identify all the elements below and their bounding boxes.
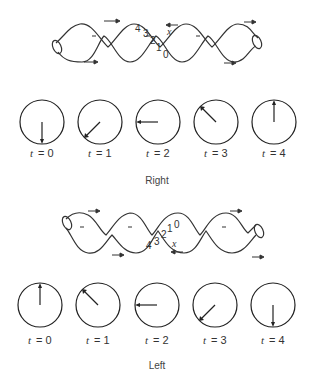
left-clock-t2: t = 2 <box>135 283 179 346</box>
left-clock-t1: t = 1 <box>76 283 120 346</box>
left-clock-t0-eq: = 0 <box>36 334 52 346</box>
right-helix-diagram: x 4 3 2 1 0 <box>0 0 314 80</box>
left-clock-t2-eq: = 2 <box>153 334 169 346</box>
left-num-3: 3 <box>154 236 160 247</box>
right-clock-t4-var: t <box>262 147 266 159</box>
right-clock-t1-eq: = 1 <box>96 147 112 159</box>
left-clock-row: t = 0 t = 1 t = 2 t = 3 t = 4 <box>0 278 314 350</box>
left-caption: Left <box>0 360 314 371</box>
left-num-0: 0 <box>174 219 180 230</box>
right-clock-t0-eq: = 0 <box>38 147 54 159</box>
left-num-1: 1 <box>167 223 173 234</box>
right-num-1: 1 <box>156 42 162 53</box>
right-clock-t4: t = 4 <box>252 100 296 159</box>
right-clock-t1: t = 1 <box>78 100 122 159</box>
right-clock-t2-var: t <box>146 147 150 159</box>
right-num-0: 0 <box>163 49 169 60</box>
right-clock-t3-eq: = 3 <box>212 147 228 159</box>
left-clock-t3-eq: = 3 <box>211 334 227 346</box>
right-clock-t0-var: t <box>30 147 34 159</box>
left-clock-t0: t = 0 <box>18 283 62 346</box>
left-clock-t2-var: t <box>145 334 149 346</box>
left-clock-t4-eq: = 4 <box>269 334 285 346</box>
left-clock-t4: t = 4 <box>251 283 295 346</box>
left-clock-t3-var: t <box>203 334 207 346</box>
left-num-4: 4 <box>146 240 152 251</box>
right-clock-row: t = 0 t = 1 t = 2 t = 3 t = 4 <box>0 95 314 165</box>
left-clock-t1-var: t <box>86 334 90 346</box>
right-clock-t2-eq: = 2 <box>154 147 170 159</box>
right-clock-t2: t = 2 <box>136 100 180 159</box>
right-caption: Right <box>0 175 314 186</box>
left-clock-t0-var: t <box>28 334 32 346</box>
left-clock-t1-eq: = 1 <box>94 334 110 346</box>
right-clock-t0: t = 0 <box>20 100 64 159</box>
left-clock-t3: t = 3 <box>193 283 237 346</box>
right-clock-t3-var: t <box>204 147 208 159</box>
right-x-variable: x <box>166 26 172 37</box>
right-num-4: 4 <box>135 23 141 34</box>
right-clock-t3: t = 3 <box>194 100 238 159</box>
right-num-3: 3 <box>143 28 149 39</box>
right-clock-t4-eq: = 4 <box>270 147 286 159</box>
left-helix-diagram: x 4 3 2 1 0 <box>0 195 314 275</box>
right-clock-t1-var: t <box>88 147 92 159</box>
left-clock-t4-var: t <box>261 334 265 346</box>
left-x-variable: x <box>171 238 177 249</box>
